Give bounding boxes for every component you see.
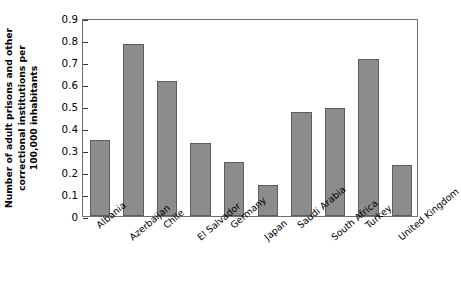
y-axis-title-line-3: 100,000 inhabitants [28,66,41,171]
y-axis-tick-label: 0 [71,211,78,224]
bar [190,143,211,216]
y-axis-tick-label: 0.4 [62,123,78,136]
x-axis-category-labels: AlbaniaAzerbaijanChileEl SalvadorGermany… [82,217,418,297]
y-axis-tick-label: 0.7 [62,57,78,70]
bar [123,44,144,216]
y-axis-tick-label: 0.3 [62,145,78,158]
bar [392,165,413,216]
y-axis-tick-label: 0.6 [62,79,78,92]
y-axis-tick-label: 0.8 [62,35,78,48]
y-axis-tick-label: 0.5 [62,101,78,114]
x-axis-label: Japan [262,217,289,242]
y-axis-tick-label: 0.1 [62,189,78,202]
y-axis-tick-label: 0.2 [62,167,78,180]
y-axis-title: Number of adult prisons and other correc… [0,11,44,226]
y-axis-tick-label: 0.9 [62,13,78,26]
bar [90,140,111,216]
bar [358,59,379,216]
bars-group [83,20,417,216]
y-axis-title-line-2: correctional institutions per [15,45,28,191]
plot-area: 00.10.20.30.40.50.60.70.80.9 [82,19,418,217]
bar [291,112,312,217]
bar [157,81,178,216]
y-axis-title-line-1: Number of adult prisons and other [3,28,16,208]
